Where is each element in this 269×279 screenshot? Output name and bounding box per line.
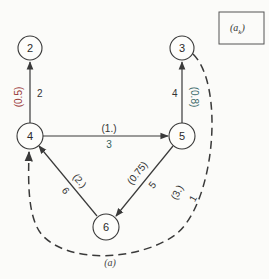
- legend-close: ): [240, 22, 245, 34]
- edge-3-4-prob: (3.): [169, 183, 186, 201]
- node-5-label: 5: [179, 130, 185, 142]
- node-3: 3: [170, 36, 194, 60]
- edge-5-3-prob: (0.8): [189, 87, 200, 108]
- edge-4-to-2: 2 (0.5): [13, 62, 43, 123]
- edge-4-5-prob: (1.): [102, 123, 117, 134]
- node-6: 6: [93, 214, 119, 240]
- figure-caption: (a): [104, 257, 116, 269]
- edge-4-2-weight: 2: [37, 88, 43, 99]
- edge-6-4-weight: 6: [60, 185, 72, 197]
- edge-6-to-4: (2.) 6: [39, 146, 97, 216]
- node-4: 4: [17, 123, 43, 149]
- edge-4-to-5: (1.) 3: [43, 123, 168, 150]
- node-5: 5: [169, 123, 195, 149]
- node-6-label: 6: [103, 221, 109, 233]
- edge-3-to-4-dashed: (3.) 1: [29, 54, 212, 256]
- legend-box: (ak): [219, 12, 264, 44]
- node-4-label: 4: [27, 130, 33, 142]
- edge-5-to-6: (0.75) 5: [116, 146, 173, 216]
- node-2: 2: [18, 36, 42, 60]
- edge-4-5-weight: 3: [106, 139, 112, 150]
- edge-3-4-weight: 1: [187, 193, 200, 203]
- edge-5-to-3: 4 (0.8): [172, 62, 200, 123]
- graph-diagram: (ak) 2 (0.5) 4 (0.8) (1.) 3 (0.75) 5 (2.…: [0, 0, 269, 279]
- edge-5-6-weight: 5: [146, 179, 158, 191]
- svg-text:(ak): (ak): [230, 22, 245, 36]
- edge-5-3-weight: 4: [172, 88, 178, 99]
- node-2-label: 2: [27, 42, 33, 54]
- node-3-label: 3: [179, 42, 185, 54]
- legend-label: (a: [230, 22, 238, 34]
- edge-4-2-prob: (0.5): [13, 87, 24, 108]
